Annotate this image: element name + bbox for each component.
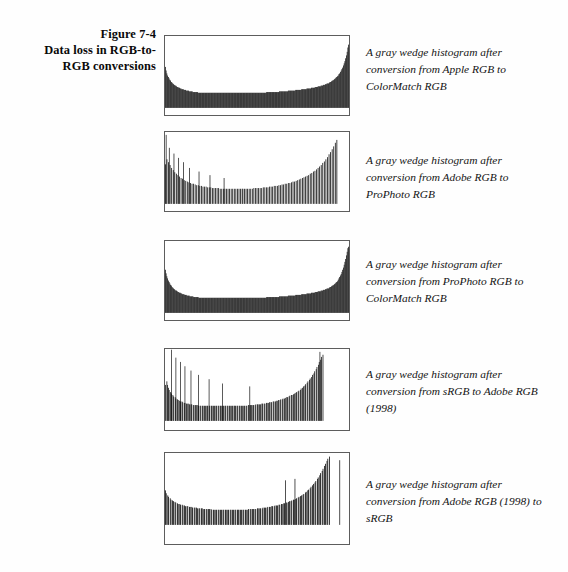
histogram-description-3: A gray wedge histogram after conversion …	[366, 256, 552, 306]
histogram-panel-1	[164, 35, 350, 116]
histogram-panel-3	[164, 240, 350, 321]
histogram-description-1: A gray wedge histogram after conversion …	[366, 44, 552, 94]
figure-caption-block: Figure 7-4 Data loss in RGB-to-RGB conve…	[18, 26, 156, 74]
histogram-plot-4	[165, 349, 349, 421]
figure-number: Figure 7-4	[18, 26, 156, 42]
histogram-panel-4	[164, 348, 350, 431]
histogram-panel-5	[164, 452, 350, 545]
figure-page: Figure 7-4 Data loss in RGB-to-RGB conve…	[0, 0, 568, 572]
histogram-description-4: A gray wedge histogram after conversion …	[366, 366, 552, 416]
histogram-plot-5	[165, 453, 349, 525]
histogram-plot-1	[165, 36, 349, 108]
histogram-plot-3	[165, 241, 349, 313]
histogram-description-5: A gray wedge histogram after conversion …	[366, 476, 552, 526]
histogram-plot-2	[165, 132, 349, 204]
histogram-panel-2	[164, 131, 350, 212]
figure-title: Data loss in RGB-to-RGB conversions	[18, 42, 156, 74]
histogram-description-2: A gray wedge histogram after conversion …	[366, 152, 552, 202]
